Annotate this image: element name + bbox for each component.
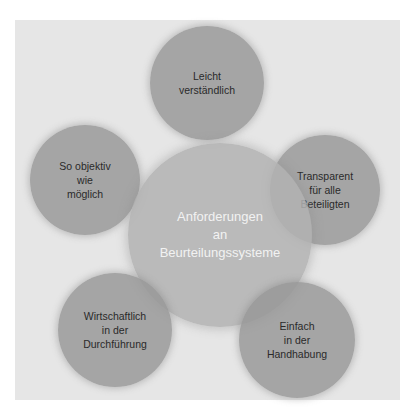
node-bottom-right-label: Einfach in der Handhabung	[267, 319, 327, 361]
node-bottom-left: Wirtschaftlich in der Durchführung	[58, 273, 172, 387]
node-bottom-right: Einfach in der Handhabung	[239, 282, 355, 398]
node-center-label: Anforderungen an Beurteilungssysteme	[160, 208, 281, 262]
node-bottom-left-label: Wirtschaftlich in der Durchführung	[83, 309, 147, 351]
node-left-label: So objektiv wie möglich	[59, 159, 110, 201]
node-top: Leicht verständlich	[150, 26, 264, 140]
node-left: So objektiv wie möglich	[30, 125, 140, 235]
node-top-label: Leicht verständlich	[179, 69, 235, 97]
